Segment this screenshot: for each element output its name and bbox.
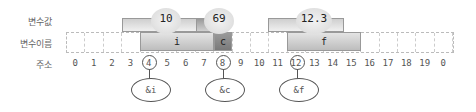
row-label-address: 주소 bbox=[36, 58, 52, 71]
memory-cell bbox=[67, 33, 85, 52]
address-label: 17 bbox=[379, 58, 397, 68]
pointer-bubble-f: &f bbox=[279, 78, 319, 102]
memory-cell bbox=[398, 33, 416, 52]
address-highlight-4 bbox=[142, 55, 157, 70]
variable-value-c: 69 bbox=[204, 8, 234, 34]
address-label: 14 bbox=[324, 58, 342, 68]
memory-cell bbox=[104, 33, 122, 52]
address-label: 6 bbox=[176, 58, 194, 68]
address-label: 18 bbox=[397, 58, 415, 68]
address-label: 2 bbox=[103, 58, 121, 68]
address-label: 10 bbox=[250, 58, 268, 68]
row-label-name: 변수이름 bbox=[20, 37, 52, 50]
variable-name-f: f bbox=[287, 32, 361, 51]
address-label: 3 bbox=[121, 58, 139, 68]
address-label: 9 bbox=[232, 58, 250, 68]
pointer-bubble-i: &i bbox=[131, 78, 171, 102]
variable-value-f: 12.3 bbox=[296, 8, 332, 34]
address-label: 0 bbox=[66, 58, 84, 68]
memory-cell bbox=[416, 33, 434, 52]
address-highlight-8 bbox=[216, 55, 231, 70]
address-label: 15 bbox=[342, 58, 360, 68]
variable-name-c: c bbox=[214, 32, 232, 51]
memory-cell bbox=[435, 33, 453, 52]
memory-cell bbox=[269, 33, 287, 52]
address-label: 19 bbox=[416, 58, 434, 68]
memory-cell bbox=[380, 33, 398, 52]
memory-grid bbox=[66, 32, 454, 53]
pointer-bubble-c: &c bbox=[205, 78, 245, 102]
memory-cell bbox=[233, 33, 251, 52]
address-highlight-12 bbox=[290, 55, 305, 70]
address-label: 11 bbox=[268, 58, 286, 68]
memory-cell bbox=[85, 33, 103, 52]
memory-cell bbox=[122, 33, 140, 52]
address-label: 0 bbox=[434, 58, 452, 68]
address-label: 7 bbox=[195, 58, 213, 68]
address-label: 13 bbox=[305, 58, 323, 68]
address-label: 16 bbox=[360, 58, 378, 68]
row-label-value: 변수값 bbox=[28, 15, 52, 28]
variable-name-i: i bbox=[140, 32, 214, 51]
memory-cell bbox=[251, 33, 269, 52]
address-label: 5 bbox=[158, 58, 176, 68]
variable-value-i: 10 bbox=[151, 8, 181, 34]
address-label: 1 bbox=[84, 58, 102, 68]
memory-cell bbox=[361, 33, 379, 52]
